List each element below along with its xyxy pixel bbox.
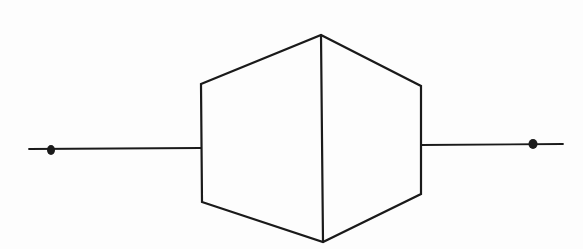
hexagonal-block [201,35,421,242]
block-center-edge [321,35,323,242]
diagram-canvas [0,0,583,249]
output-terminal-dot [529,139,538,149]
output-line [421,144,563,145]
block-outline [201,35,421,242]
output-connection [421,139,563,149]
input-connection [29,145,201,155]
input-terminal-dot [47,145,55,155]
